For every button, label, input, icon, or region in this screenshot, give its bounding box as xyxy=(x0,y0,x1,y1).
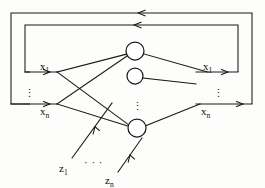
input-x1-fanout xyxy=(57,54,129,125)
right-vertical-dots-icon: ⋮ xyxy=(213,87,225,99)
output-leads xyxy=(143,54,208,126)
input-xn-fanout xyxy=(57,56,128,126)
input-z1-lead xyxy=(72,103,112,158)
bottom-horizontal-dots-icon: · · · xyxy=(84,156,103,168)
neuron-middle xyxy=(127,68,143,84)
left-vertical-dots-icon: ⋮ xyxy=(24,87,36,99)
label-input-x1: x1 xyxy=(40,60,50,75)
label-output-x1: x1 xyxy=(203,60,213,75)
input-zn-lead xyxy=(118,138,142,172)
neuron-bottom xyxy=(128,119,146,137)
label-input-zn: zn xyxy=(105,174,114,188)
neuron-top xyxy=(126,42,144,60)
diagram-canvas: x1 xn x1 xn z1 zn ⋮ ⋮ ⋮ · · · xyxy=(0,0,265,188)
label-input-xn: xn xyxy=(40,105,50,120)
label-input-z1: z1 xyxy=(59,162,68,177)
middle-vertical-dots-icon: ⋮ xyxy=(132,100,144,112)
neural-network-diagram: x1 xn x1 xn z1 zn ⋮ ⋮ ⋮ · · · xyxy=(0,0,265,188)
label-output-xn: xn xyxy=(201,105,211,120)
